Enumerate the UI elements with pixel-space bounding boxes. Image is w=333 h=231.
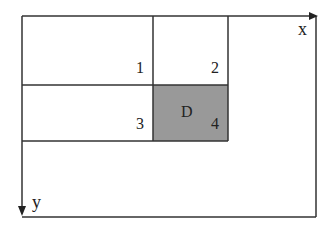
x-axis-label: x [298,20,307,38]
cell-label-2: 2 [211,60,219,76]
y-axis-arrow-icon [18,206,26,216]
diagram-canvas [0,0,333,231]
cell-label-1: 1 [136,60,144,76]
region-label-d: D [181,104,193,120]
cell-label-3: 3 [136,116,144,132]
y-axis-label: y [32,193,41,211]
cell-label-4: 4 [211,116,219,132]
